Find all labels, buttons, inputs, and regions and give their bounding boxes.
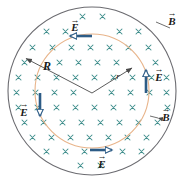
label-E-bottom-group: → E xyxy=(97,151,106,170)
label-E-bottom: E xyxy=(97,158,105,170)
label-E-top: E xyxy=(70,21,78,33)
label-E-right: E xyxy=(154,71,162,83)
radius-r-line xyxy=(92,68,132,93)
label-B-outside-group: → B xyxy=(167,8,176,27)
label-E-right-group: → E xyxy=(154,64,163,83)
b-inside-leader-line xyxy=(150,116,158,118)
label-B-outside: B xyxy=(167,15,175,27)
label-B-inside: B xyxy=(161,111,169,123)
label-B-inside-group: → B xyxy=(161,104,170,123)
physics-figure: R r → E → E → E → E → B → B xyxy=(0,0,185,183)
label-E-left-group: → E xyxy=(19,99,28,118)
label-E-top-group: → E xyxy=(70,15,79,33)
induced-electric-field-diagram: R r → E → E → E → E → B → B xyxy=(0,0,185,183)
label-radius-r: r xyxy=(116,71,120,81)
label-radius-R: R xyxy=(42,59,51,73)
label-E-left: E xyxy=(19,106,27,118)
